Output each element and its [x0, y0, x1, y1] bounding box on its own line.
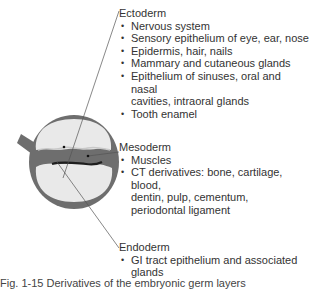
bullet: •: [121, 166, 124, 179]
mesoderm-pointer-dot: [87, 155, 90, 158]
bullet: •: [121, 32, 124, 45]
list-item: •CT derivatives: bone, cartilage, blood,…: [119, 166, 310, 216]
bullet: •: [121, 45, 124, 58]
list-item: •Nervous system: [119, 20, 310, 33]
bullet: •: [121, 57, 124, 70]
list-item: •GI tract epithelium and associated glan…: [119, 254, 297, 279]
list-item: •Epithelium of sinuses, oral and nasal c…: [119, 70, 310, 108]
ectoderm-group: Ectoderm •Nervous system •Sensory epithe…: [119, 7, 310, 120]
list-item: •Mammary and cutaneous glands: [119, 57, 310, 70]
ectoderm-pointer-dot: [63, 146, 66, 149]
bullet: •: [121, 254, 124, 267]
list-item: •Tooth enamel: [119, 108, 310, 121]
ectoderm-list: •Nervous system •Sensory epithelium of e…: [119, 20, 310, 121]
mesoderm-list: •Muscles •CT derivatives: bone, cartilag…: [119, 154, 310, 217]
ectoderm-title: Ectoderm: [119, 7, 310, 20]
mesoderm-title: Mesoderm: [119, 141, 310, 154]
bullet: •: [121, 70, 124, 83]
bullet: •: [121, 108, 124, 121]
endoderm-group: Endoderm •GI tract epithelium and associ…: [119, 241, 297, 279]
bullet: •: [121, 20, 124, 33]
endoderm-title: Endoderm: [119, 241, 297, 254]
bullet: •: [121, 154, 124, 167]
endoderm-list: •GI tract epithelium and associated glan…: [119, 254, 297, 279]
list-item: •Sensory epithelium of eye, ear, nose: [119, 32, 310, 45]
figure-caption: Fig. 1-15 Derivatives of the embryonic g…: [0, 277, 246, 289]
mesoderm-group: Mesoderm •Muscles •CT derivatives: bone,…: [119, 141, 310, 217]
list-item: •Muscles: [119, 154, 310, 167]
list-item: •Epidermis, hair, nails: [119, 45, 310, 58]
